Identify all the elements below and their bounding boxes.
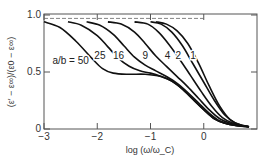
curve-ab-2 [151,22,250,127]
curve-ab-16 [87,22,249,127]
y-tick-label: 0.5 [27,66,41,77]
x-tick-label: −2 [92,131,104,142]
curve-ab-50 [44,22,249,127]
chart: −3−2−1000.51.0 a/b = 50a/b = 50252516169… [0,0,269,168]
curve-label-1: 1 [190,50,196,61]
curve-label-16: 16 [113,50,125,61]
y-tick-label: 1.0 [27,9,41,20]
x-axis-title: log (ω/ω_C) [126,145,175,155]
plot-frame [44,14,257,129]
plot-border [44,14,257,129]
curve-label-25: 25 [94,50,106,61]
y-tick-label: 0 [35,123,41,134]
x-tick-label: 0 [201,131,207,142]
y-axis-title: (ε′ − ε∞)/(ε0 − ε∞) [6,37,16,108]
curve-label-4: 4 [165,50,171,61]
data-curves [44,22,249,127]
curve-label-9: 9 [142,50,148,61]
curve-label-2: 2 [175,50,181,61]
x-tick-label: −1 [145,131,157,142]
curve-ab-1 [156,22,249,127]
curve-label-50: a/b = 50 [52,55,89,66]
